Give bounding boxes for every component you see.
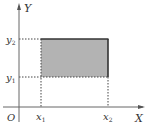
coordinate-diagram: Y X O y2 y1 x1 x2 — [0, 0, 146, 127]
origin-label: O — [7, 112, 15, 123]
y-axis-arrow-icon — [17, 3, 21, 10]
tick-x1: x1 — [36, 111, 45, 123]
shaded-region — [41, 39, 108, 77]
tick-y2: y2 — [5, 34, 16, 46]
y-axis-label: Y — [24, 2, 33, 15]
tick-y1: y1 — [5, 72, 15, 84]
x-axis-label: X — [134, 112, 144, 125]
tick-x2: x2 — [103, 111, 113, 123]
x-axis-arrow-icon — [138, 105, 145, 109]
